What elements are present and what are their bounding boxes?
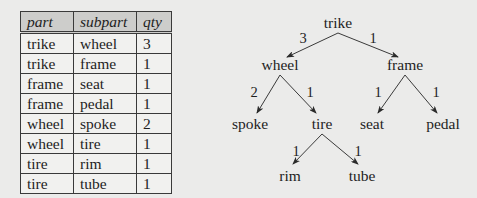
node-seat: seat (360, 115, 384, 133)
edge-label-tire-tube: 1 (354, 143, 361, 160)
edge-wheel-spoke (257, 75, 280, 113)
edge-label-frame-pedal: 1 (432, 84, 439, 101)
edge-label-tire-rim: 1 (292, 143, 299, 160)
edge-label-trike-frame: 1 (369, 30, 376, 47)
edge-trike-wheel (287, 33, 338, 57)
parts-tree-diagram: trike wheel frame spoke tire seat pedal … (0, 0, 477, 198)
edge-frame-seat (378, 75, 405, 113)
node-pedal: pedal (426, 115, 460, 133)
node-rim: rim (279, 167, 301, 185)
edge-label-frame-seat: 1 (374, 84, 381, 101)
node-trike: trike (324, 14, 352, 32)
edge-label-trike-wheel: 3 (299, 30, 306, 47)
node-frame: frame (387, 56, 423, 74)
edge-tire-tube (322, 134, 358, 164)
edge-label-wheel-spoke: 2 (250, 84, 257, 101)
node-tube: tube (349, 167, 376, 185)
edge-label-wheel-tire: 1 (306, 84, 313, 101)
tree-edges (0, 0, 477, 198)
node-tire: tire (312, 115, 333, 133)
node-wheel: wheel (261, 56, 298, 74)
node-spoke: spoke (232, 115, 268, 133)
edge-trike-frame (338, 33, 398, 57)
